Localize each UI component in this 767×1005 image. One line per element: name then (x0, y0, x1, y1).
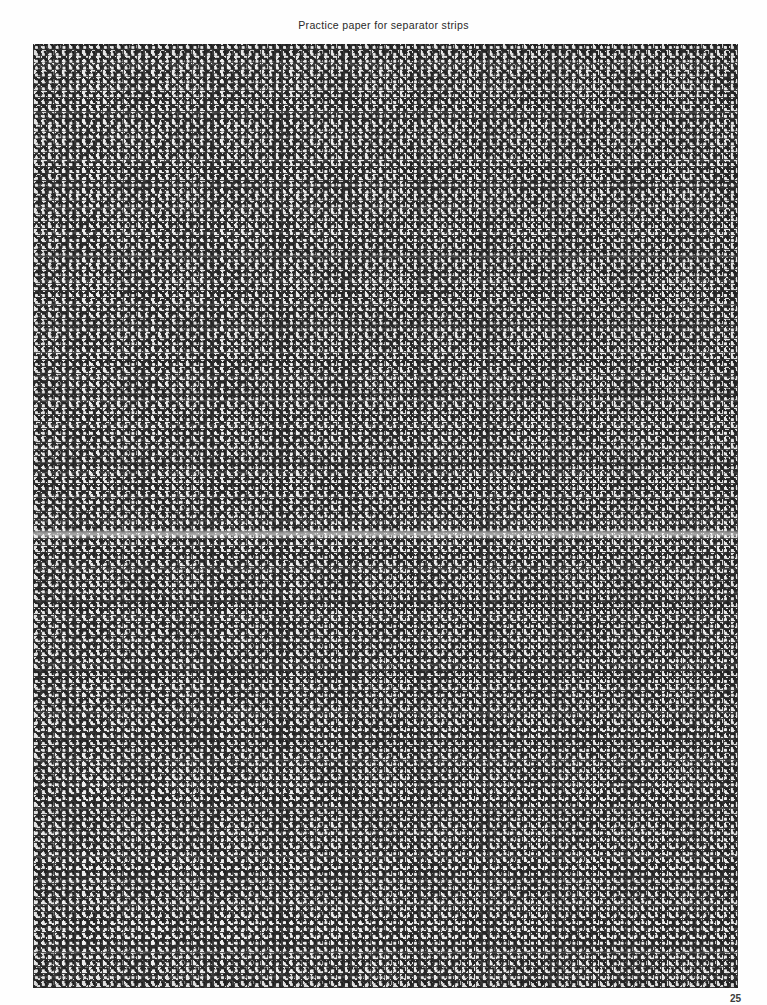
page-number: 25 (730, 993, 741, 1004)
practice-paper-swatch (33, 44, 738, 988)
page-footer: 25 (0, 993, 767, 1005)
cross-stitch-pattern-highlights (33, 44, 738, 988)
page-canvas: Practice paper for separator strips 25 (0, 0, 767, 1005)
page-title: Practice paper for separator strips (31, 18, 737, 32)
